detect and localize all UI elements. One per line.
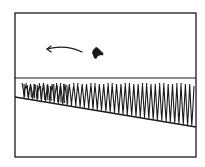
sketch-illustration <box>0 0 205 167</box>
paper-background <box>0 0 205 167</box>
